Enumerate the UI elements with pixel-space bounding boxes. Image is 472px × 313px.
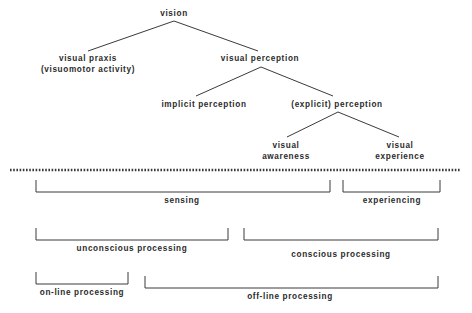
- bracket-conscious-processing: [244, 228, 438, 240]
- tree-node-visuomotor-activity-label: (visuomotor activity): [41, 64, 135, 75]
- tree-node-implicit-perception: implicit perception: [161, 99, 246, 110]
- bracket-label-sensing: sensing: [164, 196, 200, 205]
- vision-hierarchy-figure: vision visual praxis (visuomotor activit…: [0, 0, 472, 313]
- tree-node-visual-perception-label: visual perception: [221, 54, 299, 63]
- tree-node-implicit-perception-label: implicit perception: [161, 100, 246, 109]
- tree-node-visual-experience-line2: experience: [375, 151, 424, 162]
- tree-node-visual-awareness: visual awareness: [262, 140, 310, 162]
- tree-node-vision: vision: [160, 8, 188, 19]
- edge-explicit-to-visual-awareness: [287, 112, 338, 137]
- bracket-experiencing: [343, 180, 440, 192]
- bracket-sensing: [36, 180, 330, 192]
- tree-node-visual-praxis-label: visual praxis: [41, 53, 135, 64]
- edge-vision-to-visual-perception: [174, 21, 258, 51]
- bracket-off-line-processing: [145, 276, 438, 288]
- edge-explicit-to-visual-experience: [338, 112, 399, 137]
- edge-visual-perception-to-implicit: [196, 67, 261, 96]
- tree-node-visual-praxis: visual praxis (visuomotor activity): [41, 53, 135, 75]
- bracket-label-experiencing: experiencing: [363, 196, 421, 205]
- tree-node-visual-experience: visual experience: [375, 140, 424, 162]
- bracket-label-conscious-processing: conscious processing: [291, 250, 390, 259]
- tree-node-vision-label: vision: [160, 9, 188, 18]
- bracket-unconscious-processing: [36, 228, 228, 240]
- bracket-label-off-line-processing: off-line processing: [247, 292, 333, 301]
- tree-node-explicit-perception: (explicit) perception: [291, 99, 382, 110]
- tree-node-explicit-perception-label: (explicit) perception: [291, 100, 382, 109]
- bracket-on-line-processing: [36, 272, 128, 284]
- edge-visual-perception-to-explicit: [261, 67, 333, 96]
- bracket-label-unconscious-processing: unconscious processing: [77, 244, 188, 253]
- bracket-label-on-line-processing: on-line processing: [40, 288, 125, 297]
- edge-vision-to-visual-praxis: [88, 21, 174, 51]
- tree-node-visual-perception: visual perception: [221, 53, 299, 64]
- tree-node-visual-experience-line1: visual: [375, 140, 424, 151]
- tree-node-visual-awareness-line2: awareness: [262, 151, 310, 162]
- tree-node-visual-awareness-line1: visual: [262, 140, 310, 151]
